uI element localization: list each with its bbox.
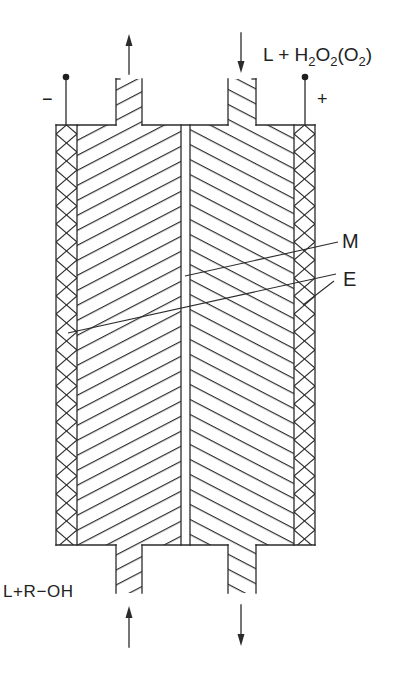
arrow-up-icon	[126, 34, 133, 74]
label-part: )	[366, 44, 372, 65]
subscript: 2	[330, 54, 337, 69]
arrow-up-icon	[126, 606, 133, 647]
left-electrode	[56, 125, 77, 545]
membrane	[181, 125, 190, 545]
inlet-label-bottom: L+R−OH	[3, 582, 74, 601]
electrochemical-cell-diagram: − + M E L + H2O2(O2) L+R−OH	[0, 0, 409, 679]
negative-terminal	[63, 74, 70, 125]
label-part: (O	[338, 44, 359, 65]
label-part: O	[315, 44, 330, 65]
arrow-down-icon	[238, 605, 245, 646]
positive-terminal	[302, 74, 309, 125]
label-part: L + H	[263, 44, 308, 65]
positive-terminal-label: +	[317, 89, 328, 109]
inlet-label-top: L + H2O2(O2)	[263, 44, 372, 69]
left-chamber	[77, 79, 181, 593]
arrow-down-icon	[238, 33, 245, 73]
membrane-label: M	[342, 230, 359, 252]
subscript: 2	[359, 54, 366, 69]
electrode-label: E	[343, 268, 356, 290]
subscript: 2	[308, 54, 315, 69]
terminal-dot-icon	[63, 74, 70, 81]
right-electrode	[294, 125, 315, 545]
negative-terminal-label: −	[42, 89, 53, 109]
right-chamber	[190, 79, 294, 593]
terminal-dot-icon	[302, 74, 309, 81]
